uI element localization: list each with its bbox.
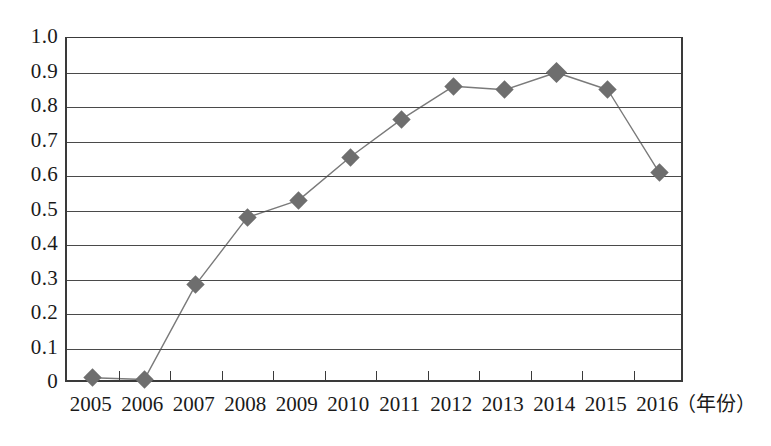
x-axis-tick xyxy=(479,371,480,380)
y-axis-tick-label: 0.6 xyxy=(2,164,58,185)
y-axis-tick-label: 0 xyxy=(2,371,58,392)
x-axis-tick-label: 2013 xyxy=(482,392,524,416)
x-axis-tick-label: 2007 xyxy=(173,392,215,416)
x-axis-tick xyxy=(222,371,223,380)
x-axis-tick-label: 2005 xyxy=(70,392,112,416)
x-axis-tick xyxy=(634,371,635,380)
x-axis-tick xyxy=(170,371,171,380)
x-axis-tick-label: 2011 xyxy=(379,392,420,416)
x-axis-tick xyxy=(325,371,326,380)
y-axis-tick-label: 0.9 xyxy=(2,61,58,82)
y-axis-tick-label: 0.2 xyxy=(2,302,58,323)
gridline xyxy=(67,349,681,350)
gridline xyxy=(67,142,681,143)
gridline xyxy=(67,211,681,212)
y-axis-tick-label: 0.3 xyxy=(2,268,58,289)
x-axis-tick xyxy=(119,371,120,380)
x-axis-tick xyxy=(376,371,377,380)
gridline xyxy=(67,314,681,315)
x-axis-tick-label: 2008 xyxy=(224,392,266,416)
x-axis-tick xyxy=(582,371,583,380)
x-axis-title: （年份） xyxy=(676,392,756,416)
x-axis-tick-label: 2006 xyxy=(121,392,163,416)
line-chart: 1.00.90.80.70.60.50.40.30.20.10 20052006… xyxy=(0,0,771,446)
gridline xyxy=(67,176,681,177)
x-axis-tick xyxy=(273,371,274,380)
x-axis-tick-labels: 2005200620072008200920102011201220132014… xyxy=(0,392,771,426)
x-axis-tick-label: 2009 xyxy=(276,392,318,416)
gridline xyxy=(67,245,681,246)
x-axis-tick-label: 2016 xyxy=(636,392,678,416)
y-axis-tick-label: 0.7 xyxy=(2,130,58,151)
gridline xyxy=(67,280,681,281)
y-axis-tick-label: 0.4 xyxy=(2,233,58,254)
y-axis-tick-label: 0.1 xyxy=(2,337,58,358)
x-axis-tick xyxy=(428,371,429,380)
x-axis-tick-label: 2010 xyxy=(327,392,369,416)
plot-area xyxy=(65,37,683,382)
y-axis-tick-label: 1.0 xyxy=(2,26,58,47)
y-axis-tick-labels: 1.00.90.80.70.60.50.40.30.20.10 xyxy=(0,0,58,446)
x-axis-tick-label: 2014 xyxy=(533,392,575,416)
x-axis-tick xyxy=(531,371,532,380)
y-axis-tick-label: 0.5 xyxy=(2,199,58,220)
x-axis-tick-label: 2015 xyxy=(585,392,627,416)
x-axis-tick-label: 2012 xyxy=(430,392,472,416)
gridline xyxy=(67,73,681,74)
y-axis-tick-label: 0.8 xyxy=(2,95,58,116)
gridline xyxy=(67,107,681,108)
